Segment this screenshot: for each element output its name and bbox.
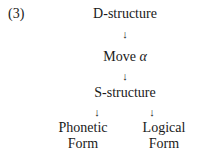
- node-s-structure: S-structure: [94, 85, 155, 101]
- logical-label: Logical: [143, 120, 186, 136]
- phonetic-label: Phonetic: [59, 120, 108, 136]
- arrow-down-icon: ↓: [122, 70, 128, 82]
- node-phonetic-form: Phonetic Form: [59, 120, 108, 152]
- move-label: Move: [103, 49, 136, 64]
- node-logical-form: Logical Form: [143, 120, 186, 152]
- arrow-down-icon: ↓: [122, 28, 128, 40]
- example-number: (3): [8, 6, 24, 22]
- node-move-alpha: Move α: [103, 49, 147, 65]
- form-label: Form: [59, 136, 108, 152]
- alpha-symbol: α: [139, 49, 146, 64]
- arrow-down-icon: ↓: [94, 106, 100, 118]
- arrow-down-icon: ↓: [149, 106, 155, 118]
- form-label: Form: [143, 136, 186, 152]
- node-d-structure: D-structure: [93, 6, 157, 22]
